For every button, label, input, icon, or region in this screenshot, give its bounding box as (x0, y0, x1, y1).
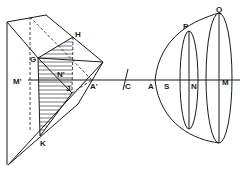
label-C: C (125, 82, 131, 91)
prism-front-top-edge (7, 22, 38, 58)
label-Q: Q (216, 5, 222, 14)
label-H: H (75, 30, 81, 39)
label-P: P (183, 22, 189, 31)
geometry-diagram: G H N' M' J A' K C A S N M P Q (0, 0, 240, 171)
paraboloid (155, 13, 232, 143)
label-N-prime: N' (57, 70, 65, 79)
label-M-prime: M' (13, 77, 22, 86)
label-K: K (40, 139, 46, 148)
prism-top-edge (7, 15, 46, 22)
label-J: J (66, 84, 70, 93)
label-N: N (191, 82, 197, 91)
label-M: M (222, 78, 229, 87)
label-G: G (30, 55, 36, 64)
prism-hidden-edge (72, 80, 92, 93)
label-A-prime: A' (90, 82, 98, 91)
label-A: A (148, 82, 154, 91)
label-S: S (164, 82, 170, 91)
